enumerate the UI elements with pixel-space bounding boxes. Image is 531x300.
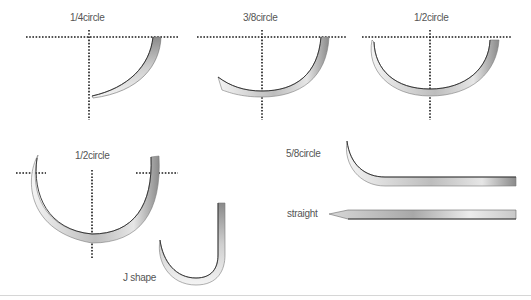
label-quarter-circle: 1/4circle — [70, 12, 105, 23]
half-circle-small-figure — [362, 30, 512, 120]
label-j-shape: J shape — [123, 272, 156, 283]
label-straight: straight — [287, 208, 317, 219]
label-half-circle-large: 1/2circle — [75, 150, 110, 161]
quarter-circle-figure — [26, 30, 178, 120]
j-shape-needle — [159, 203, 225, 285]
needle-shapes-diagram: 1/4circle 3/8circle 1/2circle 1/2circle … — [0, 0, 531, 300]
half-circle-large-figure — [16, 155, 178, 258]
quarter-circle-needle — [92, 37, 161, 98]
j-shape-figure — [159, 203, 225, 285]
five-eighths-circle-needle — [346, 141, 516, 186]
straight-needle — [329, 210, 516, 219]
label-five-eighths-circle: 5/8circle — [286, 148, 321, 159]
label-three-eighths-circle: 3/8circle — [243, 12, 278, 23]
five-eighths-circle-figure — [346, 141, 516, 186]
straight-figure — [329, 210, 516, 219]
footer-rule — [0, 295, 531, 296]
three-eighths-circle-figure — [197, 30, 347, 120]
needle-edge — [347, 141, 516, 177]
label-half-circle-small: 1/2circle — [414, 12, 449, 23]
half-circle-large-needle — [31, 155, 159, 243]
